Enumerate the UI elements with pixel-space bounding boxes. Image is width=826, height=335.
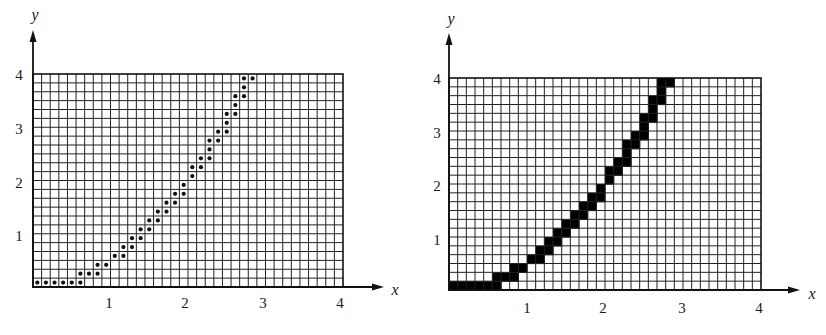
filled-pixel <box>657 96 666 105</box>
filled-pixel <box>605 175 614 184</box>
filled-pixel <box>648 96 657 105</box>
filled-pixel <box>570 219 579 228</box>
filled-pixel <box>527 255 536 264</box>
filled-pixel <box>579 202 588 211</box>
filled-pixel <box>570 211 579 220</box>
filled-pixel <box>588 193 597 202</box>
y-tick-1: 1 <box>433 233 441 248</box>
filled-pixel <box>666 78 675 87</box>
filled-pixel <box>648 113 657 122</box>
filled-pixel <box>588 202 597 211</box>
filled-pixel <box>640 131 649 140</box>
filled-pixel-grid <box>0 0 826 335</box>
filled-pixel <box>657 78 666 87</box>
filled-pixel <box>640 113 649 122</box>
x-tick-1: 1 <box>523 301 531 316</box>
filled-pixel <box>622 158 631 167</box>
filled-pixel <box>536 255 545 264</box>
y-tick-2: 2 <box>433 179 441 194</box>
filled-pixel <box>640 122 649 131</box>
filled-pixel <box>631 140 640 149</box>
filled-pixel <box>605 166 614 175</box>
y-axis-label: y <box>447 11 454 26</box>
filled-pixel <box>562 219 571 228</box>
y-tick-4: 4 <box>433 72 441 87</box>
filled-pixel <box>544 246 553 255</box>
filled-pixel <box>631 131 640 140</box>
filled-pixel <box>596 184 605 193</box>
filled-pixel <box>614 166 623 175</box>
x-axis-label: x <box>808 286 815 301</box>
filled-pixel <box>579 211 588 220</box>
y-tick-3: 3 <box>433 126 441 141</box>
filled-pixel <box>614 158 623 167</box>
x-tick-2: 2 <box>599 301 607 316</box>
filled-pixel <box>544 237 553 246</box>
filled-pixel <box>536 246 545 255</box>
filled-pixel <box>622 149 631 158</box>
x-tick-4: 4 <box>755 301 763 316</box>
filled-pixel <box>510 264 519 273</box>
filled-pixel <box>501 272 510 281</box>
filled-pixel <box>622 140 631 149</box>
filled-pixel <box>657 87 666 96</box>
filled-pixel <box>553 237 562 246</box>
filled-pixel <box>596 193 605 202</box>
filled-pixel <box>518 264 527 273</box>
filled-pixel <box>553 228 562 237</box>
filled-pixel <box>510 272 519 281</box>
x-tick-3: 3 <box>678 301 686 316</box>
filled-pixel <box>492 272 501 281</box>
right-figure-filled: y x 1 2 3 4 1 2 3 4 <box>0 0 826 335</box>
grid-lines <box>449 78 761 290</box>
filled-pixel <box>648 105 657 114</box>
filled-pixel <box>562 228 571 237</box>
